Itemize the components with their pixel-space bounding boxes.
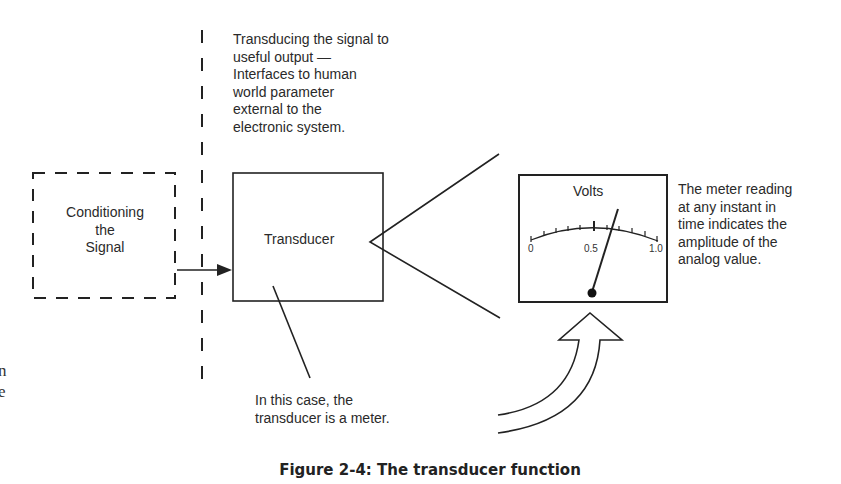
meter-note-line: The meter reading bbox=[678, 181, 841, 199]
pointer-line bbox=[273, 286, 310, 378]
scale-label-1-0: 1.0 bbox=[649, 243, 663, 254]
meter-note-line: amplitude of the bbox=[678, 234, 841, 252]
bottom-note-line: transducer is a meter. bbox=[255, 410, 475, 428]
top-note-line: useful output — bbox=[233, 49, 433, 67]
top-note-line: electronic system. bbox=[233, 119, 433, 137]
zoom-lines bbox=[370, 154, 500, 318]
meter-note-line: time indicates the bbox=[678, 216, 841, 234]
scale-label-0: 0 bbox=[528, 243, 534, 254]
conditioning-line: Conditioning bbox=[40, 204, 170, 222]
curved-arrow-icon bbox=[498, 313, 622, 433]
meter-ticks bbox=[531, 221, 657, 242]
scale-label-0-5: 0.5 bbox=[584, 243, 598, 254]
top-note-line: world parameter bbox=[233, 84, 433, 102]
signal-arrowhead-icon bbox=[217, 264, 232, 276]
meter-note-line: analog value. bbox=[678, 251, 841, 269]
transducer-label: Transducer bbox=[264, 231, 334, 249]
conditioning-line: Signal bbox=[40, 239, 170, 257]
bottom-note-line: In this case, the bbox=[255, 392, 475, 410]
top-note: Transducing the signal to useful output … bbox=[233, 31, 433, 136]
cut-text-line: n bbox=[0, 360, 7, 381]
cut-off-body-text: n e bbox=[0, 360, 7, 402]
conditioning-line: the bbox=[40, 222, 170, 240]
top-note-line: external to the bbox=[233, 101, 433, 119]
bottom-note: In this case, the transducer is a meter. bbox=[255, 392, 475, 427]
meter-note: The meter reading at any instant in time… bbox=[678, 181, 841, 269]
top-note-line: Transducing the signal to bbox=[233, 31, 433, 49]
meter-title: Volts bbox=[573, 183, 603, 201]
top-note-line: Interfaces to human bbox=[233, 66, 433, 84]
figure-caption: Figure 2-4: The transducer function bbox=[150, 461, 710, 479]
conditioning-label: Conditioning the Signal bbox=[40, 204, 170, 257]
needle-pivot bbox=[588, 289, 597, 298]
meter-note-line: at any instant in bbox=[678, 199, 841, 217]
cut-text-line: e bbox=[0, 381, 7, 402]
